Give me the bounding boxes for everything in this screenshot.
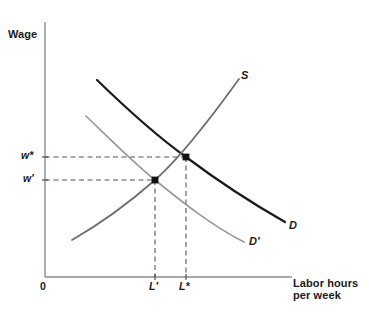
demand-curve-label: D — [289, 219, 297, 231]
supply-curve-label: S — [241, 69, 248, 81]
tick-marks-group — [42, 157, 186, 280]
origin-label: 0 — [40, 281, 46, 293]
y-tick-label-w-prime: w′ — [23, 173, 34, 185]
demand-shifted-curve-label: D′ — [249, 235, 260, 247]
demand-curve-D — [97, 80, 285, 222]
x-axis-title-line2: per week — [293, 289, 341, 301]
labor-market-figure: Wage Labor hoursper week w* w′ L′ L* 0 S… — [0, 0, 369, 315]
x-axis-title-line1: Labor hours — [293, 277, 358, 289]
guide-lines-group — [45, 157, 186, 277]
y-tick-label-w-star: w* — [21, 150, 33, 162]
y-axis-title: Wage — [8, 28, 37, 40]
demand-curve-D-prime — [86, 116, 244, 242]
x-tick-label-L-star: L* — [179, 281, 190, 293]
x-axis-title: Labor hoursper week — [293, 277, 358, 302]
x-tick-label-L-prime: L′ — [149, 281, 158, 293]
chart-canvas — [0, 0, 369, 315]
equilibrium-marker-shifted — [152, 177, 159, 184]
equilibrium-marker-initial — [183, 154, 190, 161]
